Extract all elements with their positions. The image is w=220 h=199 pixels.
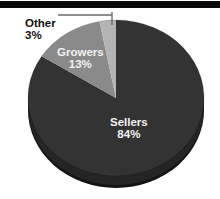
slice-label-other-name: Other [25, 17, 56, 29]
pie-chart-figure: Other 3% Growers 13% Sellers 84% [0, 0, 220, 199]
slice-label-growers-name: Growers [57, 46, 104, 58]
slice-label-sellers-value: 84% [110, 128, 148, 140]
slice-label-growers: Growers 13% [57, 46, 104, 71]
slice-label-sellers: Sellers 84% [110, 116, 148, 141]
top-rule-divider [0, 1, 220, 8]
pie-top-face [28, 20, 204, 176]
slice-label-other: Other 3% [25, 17, 56, 42]
slice-label-other-value: 3% [25, 29, 56, 41]
chart-plot-area: Other 3% Growers 13% Sellers 84% [0, 8, 220, 199]
slice-label-sellers-name: Sellers [110, 116, 148, 128]
slice-label-growers-value: 13% [57, 58, 104, 70]
